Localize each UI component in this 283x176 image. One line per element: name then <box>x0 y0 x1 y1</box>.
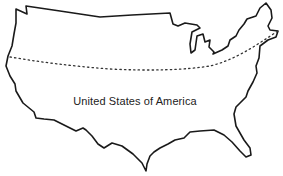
country-label: United States of America <box>0 95 270 107</box>
us-country-outline <box>6 3 278 171</box>
us-outline-map <box>0 0 283 176</box>
